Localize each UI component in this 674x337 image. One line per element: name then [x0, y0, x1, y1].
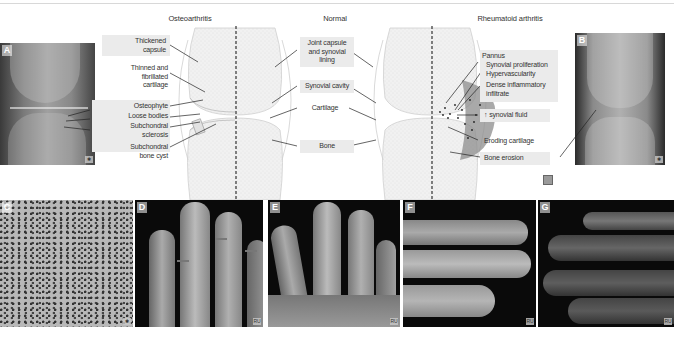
label-joint-capsule-synovial-lining: Joint capsule and synovial lining [300, 37, 354, 67]
hand-photo-panel-f: F RU [403, 200, 536, 327]
label-pannus: Pannus [482, 52, 505, 61]
label-bone: Bone [300, 140, 354, 153]
arrow-icon [177, 260, 189, 262]
label-increased-synovial-fluid: ↑ synovial fluid [480, 109, 550, 122]
label-osteophyte: Osteophyte [102, 102, 168, 111]
copyright-mark-icon: ✱ [123, 318, 131, 325]
panel-label-d: D [137, 202, 147, 213]
hand-photo-panel-g: G RU [538, 200, 674, 327]
arrow-icon [245, 250, 257, 252]
panel-label-g: G [540, 202, 550, 213]
label-hypervascularity: Hypervascularity [486, 70, 535, 79]
label-loose-bodies: Loose bodies [102, 112, 168, 121]
histology-panel-c: C ✱ [0, 200, 133, 327]
label-subchondral-sclerosis: Subchondral sclerosis [102, 122, 168, 139]
label-cartilage: Cartilage [300, 104, 350, 113]
oa-normal-joint [179, 28, 291, 200]
label-synovial-proliferation: Synovial proliferation [486, 61, 548, 70]
arrow-icon [215, 238, 227, 240]
copyright-mark-icon: RU [253, 318, 261, 325]
panel-label-c: C [2, 202, 12, 213]
panel-label-f: F [405, 202, 415, 213]
copyright-mark-icon: RU [390, 318, 398, 325]
label-bone-erosion: Bone erosion [480, 152, 550, 165]
label-thickened-capsule: Thickened capsule [102, 35, 170, 56]
label-eroding-cartilage: Eroding cartilage [484, 137, 534, 146]
publisher-logo-icon [543, 175, 553, 185]
label-synovial-cavity: Synovial cavity [300, 80, 354, 93]
label-thinned-fibrillated-cartilage: Thinned and fibrillated cartilage [102, 64, 168, 90]
copyright-mark-icon: RU [664, 318, 672, 325]
label-dense-inflammatory-infiltrate: Dense inflammatory infiltrate [486, 81, 546, 98]
hand-photo-panel-e: E RU [268, 200, 400, 327]
hand-photo-panel-d: D RU [135, 200, 263, 327]
normal-ra-joint [374, 28, 496, 200]
panel-label-e: E [270, 202, 280, 213]
copyright-mark-icon: RU [526, 318, 534, 325]
label-subchondral-bone-cyst: Subchondral bone cyst [102, 143, 168, 160]
